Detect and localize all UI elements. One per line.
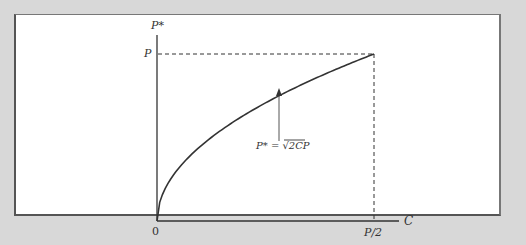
y-tick-label-p: P [144, 48, 151, 59]
formula-radicand: 2CP [289, 140, 310, 151]
y-axis-label: P* [151, 20, 164, 31]
x-axis-label: C [404, 215, 413, 227]
x-tick-label-zero: 0 [152, 226, 159, 237]
curve-p-star [157, 54, 374, 221]
annotation-arrow-head [276, 88, 282, 96]
chart-plot-area [0, 0, 526, 245]
formula-annotation: P* = √2CP [256, 141, 310, 151]
x-tick-label-p-half: P/2 [364, 227, 382, 238]
formula-lhs: P* = [256, 140, 279, 151]
